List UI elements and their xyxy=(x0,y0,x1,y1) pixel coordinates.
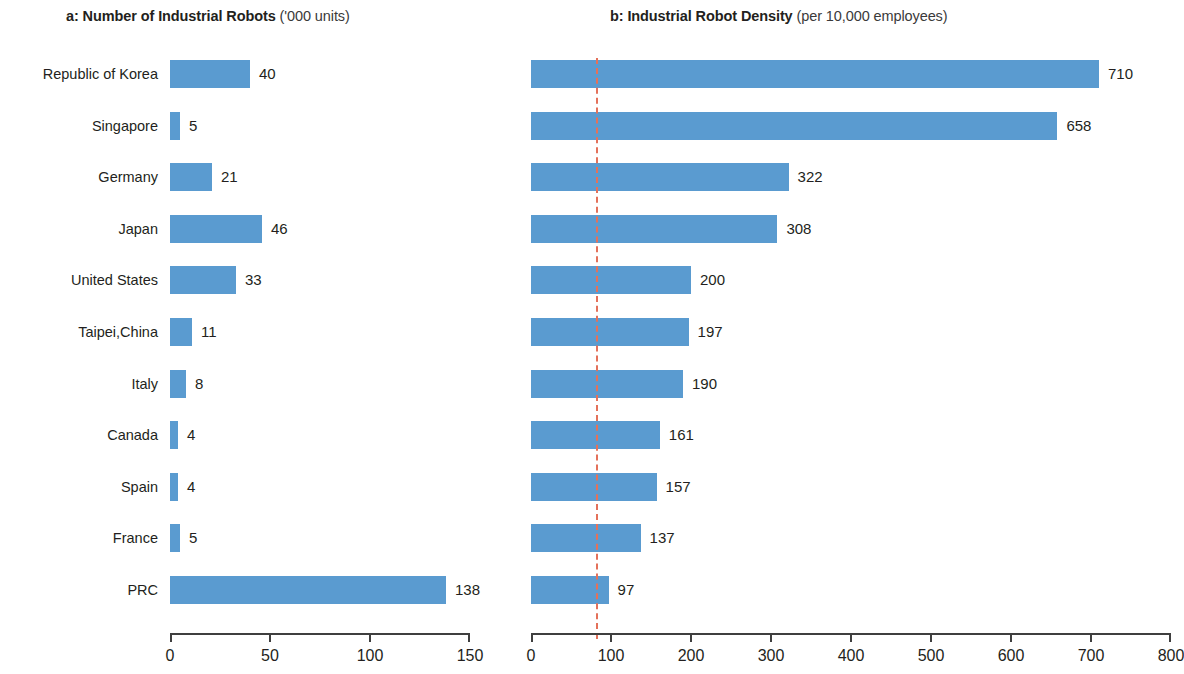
category-label: Germany xyxy=(98,163,158,191)
table-row: 197 xyxy=(510,318,1178,346)
table-row: 322 xyxy=(510,163,1178,191)
bar xyxy=(170,473,178,501)
axis-tick xyxy=(1169,633,1171,642)
bar-value-label: 21 xyxy=(221,163,238,191)
axis-tick xyxy=(170,633,172,642)
bar-value-label: 4 xyxy=(187,473,195,501)
bar-value-label: 138 xyxy=(455,576,480,604)
table-row: Singapore5 xyxy=(0,112,500,140)
bar-value-label: 4 xyxy=(187,421,195,449)
panel-b-title-unit: (per 10,000 employees) xyxy=(797,8,948,24)
panel-b-title: b: Industrial Robot Density (per 10,000 … xyxy=(610,8,947,24)
bar xyxy=(170,215,262,243)
bar xyxy=(170,576,446,604)
axis-tick-label: 0 xyxy=(527,647,536,665)
category-label: Republic of Korea xyxy=(43,60,158,88)
bar xyxy=(531,524,641,552)
bar xyxy=(170,60,250,88)
table-row: PRC138 xyxy=(0,576,500,604)
bar xyxy=(170,370,186,398)
axis-line xyxy=(170,633,470,635)
table-row: Taipei,China11 xyxy=(0,318,500,346)
table-row: 710 xyxy=(510,60,1178,88)
bar xyxy=(531,370,683,398)
reference-line xyxy=(596,58,598,639)
bar-value-label: 137 xyxy=(650,524,675,552)
bar-value-label: 197 xyxy=(698,318,723,346)
table-row: 137 xyxy=(510,524,1178,552)
bar xyxy=(170,318,192,346)
axis-tick-label: 150 xyxy=(457,647,484,665)
bar-value-label: 8 xyxy=(195,370,203,398)
bar-value-label: 710 xyxy=(1108,60,1133,88)
axis-tick xyxy=(610,633,612,642)
table-row: 200 xyxy=(510,266,1178,294)
table-row: Italy8 xyxy=(0,370,500,398)
category-label: Canada xyxy=(107,421,158,449)
bar xyxy=(170,163,212,191)
category-label: Italy xyxy=(131,370,158,398)
bar-value-label: 11 xyxy=(201,318,217,346)
bar xyxy=(531,215,777,243)
table-row: 157 xyxy=(510,473,1178,501)
bar-value-label: 161 xyxy=(669,421,694,449)
bar xyxy=(170,524,180,552)
axis-tick xyxy=(930,633,932,642)
axis-tick-label: 700 xyxy=(1078,647,1105,665)
axis-tick xyxy=(369,633,371,642)
bar xyxy=(170,421,178,449)
category-label: United States xyxy=(71,266,158,294)
category-label: France xyxy=(113,524,158,552)
axis-tick xyxy=(468,633,470,642)
table-row: 97 xyxy=(510,576,1178,604)
table-row: Germany21 xyxy=(0,163,500,191)
bar-value-label: 40 xyxy=(259,60,276,88)
bar-value-label: 5 xyxy=(189,112,197,140)
bar-value-label: 157 xyxy=(666,473,691,501)
axis-tick-label: 400 xyxy=(838,647,865,665)
axis-tick-label: 200 xyxy=(678,647,705,665)
category-label: Singapore xyxy=(92,112,158,140)
table-row: Spain4 xyxy=(0,473,500,501)
table-row: United States33 xyxy=(0,266,500,294)
axis-tick-label: 100 xyxy=(598,647,625,665)
bar-value-label: 33 xyxy=(245,266,262,294)
bar xyxy=(531,163,789,191)
table-row: France5 xyxy=(0,524,500,552)
axis-tick-label: 600 xyxy=(998,647,1025,665)
panel-a-title: a: Number of Industrial Robots ('000 uni… xyxy=(66,8,350,24)
bar xyxy=(170,112,180,140)
table-row: Canada4 xyxy=(0,421,500,449)
axis-tick xyxy=(269,633,271,642)
table-row: 161 xyxy=(510,421,1178,449)
table-row: Japan46 xyxy=(0,215,500,243)
axis-tick xyxy=(531,633,533,642)
table-row: Republic of Korea40 xyxy=(0,60,500,88)
table-row: 190 xyxy=(510,370,1178,398)
bar-value-label: 97 xyxy=(618,576,635,604)
category-label: Taipei,China xyxy=(78,318,158,346)
bar-value-label: 46 xyxy=(271,215,288,243)
table-row: 658 xyxy=(510,112,1178,140)
bar xyxy=(531,318,689,346)
bar-value-label: 658 xyxy=(1066,112,1091,140)
panel-a-title-unit: ('000 units) xyxy=(280,8,350,24)
panel-b-title-main: b: Industrial Robot Density xyxy=(610,8,793,24)
axis-tick-label: 300 xyxy=(758,647,785,665)
bar-value-label: 308 xyxy=(786,215,811,243)
bar xyxy=(531,60,1099,88)
table-row: 308 xyxy=(510,215,1178,243)
category-label: Japan xyxy=(118,215,158,243)
axis-tick-label: 100 xyxy=(357,647,384,665)
bar xyxy=(531,112,1057,140)
bar-value-label: 322 xyxy=(798,163,823,191)
bar-value-label: 200 xyxy=(700,266,725,294)
bar xyxy=(531,266,691,294)
axis-tick xyxy=(690,633,692,642)
bar-value-label: 190 xyxy=(692,370,717,398)
axis-tick-label: 0 xyxy=(166,647,175,665)
bar-value-label: 5 xyxy=(189,524,197,552)
bar xyxy=(531,473,657,501)
bar xyxy=(170,266,236,294)
